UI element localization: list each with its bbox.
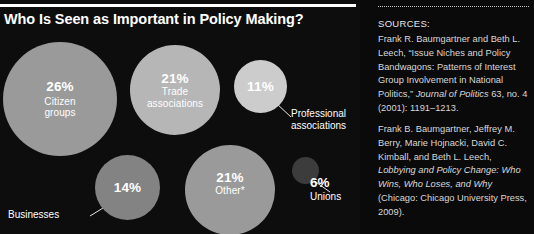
sources-rule: [378, 6, 530, 7]
bubble-businesses[interactable]: 14%: [95, 155, 160, 220]
leader-line-businesses: [90, 208, 103, 216]
callout-unions-text: Unions: [310, 191, 358, 203]
bubble-trade-associations[interactable]: 21% Trade associations: [130, 45, 220, 135]
bubble-value-other: 21%: [215, 170, 245, 185]
bubble-other-inner: 21% Other*: [215, 170, 245, 197]
infographic-figure: Who Is Seen as Important in Policy Makin…: [0, 0, 534, 234]
callout-unions-value: 6%: [310, 176, 358, 191]
bubble-other[interactable]: 21% Other*: [185, 145, 275, 234]
source-entry-1: Frank R. Baumgartner and Beth L. Leech, …: [378, 33, 530, 116]
callout-businesses: Businesses: [8, 209, 88, 221]
source-2-part-1: Frank B. Baumgartner, Jeffrey M. Berry, …: [378, 124, 515, 162]
leader-line-professional: [277, 104, 291, 117]
callout-professional-line2: associations: [291, 120, 359, 132]
title-rule: [0, 4, 356, 7]
bubble-label-citizen-groups-line1: Citizen: [44, 96, 75, 107]
bubble-label-citizen-groups-line2: groups: [44, 107, 75, 118]
bubble-label-other: Other*: [215, 185, 245, 196]
callout-unions: 6% Unions: [310, 176, 358, 203]
chart-panel: Who Is Seen as Important in Policy Makin…: [0, 0, 360, 234]
bubble-value-trade-associations: 21%: [161, 71, 189, 86]
bubble-citizen-groups[interactable]: 26% Citizen groups: [3, 42, 117, 156]
sources-heading: SOURCES:: [378, 18, 430, 29]
callout-professional-associations: Professional associations: [291, 108, 359, 132]
source-1-italic-title: Journal of Politics: [416, 89, 489, 99]
bubble-value-citizen-groups: 26%: [46, 79, 74, 94]
source-2-italic-title: Lobbying and Policy Change: Who Wins, Wh…: [378, 165, 521, 189]
page-title: Who Is Seen as Important in Policy Makin…: [4, 11, 354, 27]
bubble-value-professional-associations: 11%: [247, 79, 274, 94]
source-2-part-2: (Chicago: Chicago University Press, 2009…: [378, 193, 527, 217]
bubble-label-trade-associations-line2: associations: [147, 98, 203, 109]
sources-panel: SOURCES: Frank R. Baumgartner and Beth L…: [378, 0, 534, 234]
callout-professional-line1: Professional: [291, 108, 359, 120]
bubble-label-trade-associations-line1: Trade: [162, 86, 188, 97]
callout-businesses-text: Businesses: [8, 209, 88, 221]
source-entry-2: Frank B. Baumgartner, Jeffrey M. Berry, …: [378, 123, 530, 219]
bubble-value-businesses: 14%: [114, 180, 142, 195]
bubble-professional-associations[interactable]: 11%: [234, 60, 287, 113]
